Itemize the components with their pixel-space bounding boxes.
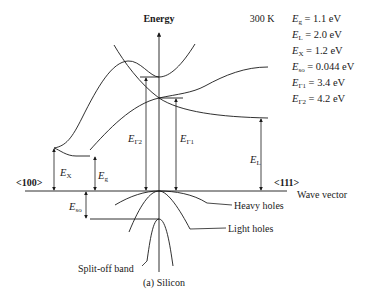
legend-eg: Eg = 1.1 eV: [291, 13, 342, 26]
light-holes-label: Light holes: [228, 223, 273, 234]
eso-label: Eso: [68, 201, 82, 214]
silicon-band-structure-diagram: Energy 300 K Eg = 1.1 eV EL = 2.0 eV EX …: [0, 0, 367, 303]
direction-111-label: <111>: [274, 177, 300, 188]
heavy-holes-label: Heavy holes: [234, 200, 284, 211]
parameter-legend: Eg = 1.1 eV EL = 2.0 eV EX = 1.2 eV Eso …: [291, 13, 355, 106]
temperature-label: 300 K: [250, 13, 276, 24]
heavy-holes-leader: [207, 203, 232, 205]
legend-ex: EX = 1.2 eV: [291, 45, 343, 58]
conduction-band-gamma2-upper: [159, 44, 195, 77]
x-valley-curve: [54, 148, 90, 156]
ex-label: EX: [59, 167, 71, 180]
conduction-band-lower: [90, 67, 268, 150]
legend-egamma1: EΓ1 = 3.4 eV: [291, 77, 346, 90]
egamma1-label: EΓ1: [179, 133, 194, 146]
direction-100-label: <100>: [16, 177, 43, 188]
heavy-holes-band: [115, 191, 207, 205]
split-off-band: [147, 219, 173, 266]
el-label: EL: [249, 154, 261, 167]
egamma2-label: EΓ2: [127, 133, 142, 146]
light-holes-band: [129, 191, 190, 232]
energy-axis-label: Energy: [143, 13, 174, 24]
figure-caption: (a) Silicon: [143, 277, 185, 289]
eg-label: Eg: [97, 170, 108, 183]
wave-vector-label: Wave vector: [297, 189, 348, 200]
split-off-band-label: Split-off band: [78, 263, 134, 274]
split-off-leader: [142, 261, 147, 266]
light-holes-leader: [190, 228, 226, 229]
legend-egamma2: EΓ2 = 4.2 eV: [291, 93, 346, 106]
legend-el: EL = 2.0 eV: [291, 29, 342, 42]
legend-eso: Eso = 0.044 eV: [291, 61, 355, 74]
conduction-band-hump: [54, 61, 159, 148]
